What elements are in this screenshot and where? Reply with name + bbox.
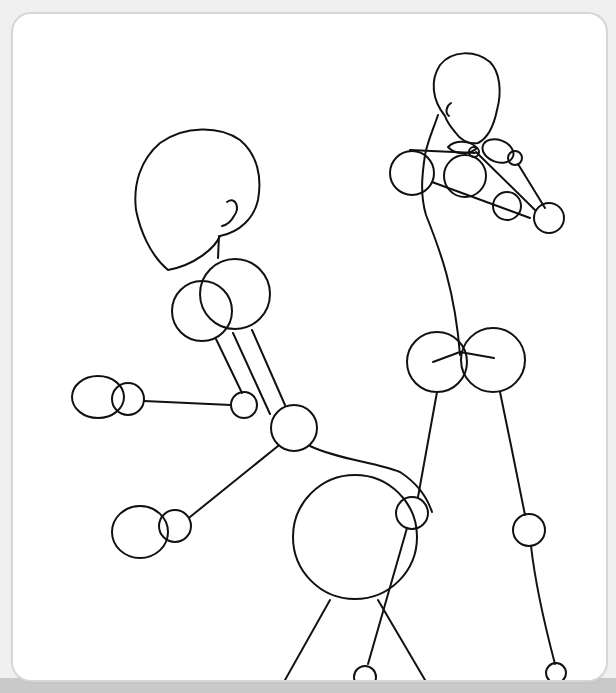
left-wrist-lower — [159, 510, 191, 542]
right-figure — [390, 53, 566, 680]
left-leg-3 — [378, 600, 425, 680]
right-far-elbow-small — [508, 151, 522, 165]
left-head — [135, 129, 259, 270]
bottom-band — [0, 678, 616, 693]
right-ankle — [546, 663, 566, 680]
left-neck — [218, 236, 219, 258]
left-hand-upper — [72, 376, 124, 418]
left-figure — [72, 129, 432, 680]
left-spine — [310, 446, 432, 512]
left-upperarm-line-3 — [252, 330, 285, 405]
right-thigh-right — [500, 392, 525, 515]
right-pelvis-line-2 — [460, 352, 494, 358]
left-shoulder-joint — [200, 259, 270, 329]
left-upperarm-line-2 — [233, 333, 270, 414]
right-ear — [447, 103, 451, 116]
right-knee — [513, 514, 545, 546]
right-head — [434, 53, 500, 143]
right-arm-1 — [432, 182, 530, 218]
right-shin — [531, 546, 555, 664]
right-hip-left — [407, 332, 467, 392]
right-shoulder-right — [444, 155, 486, 197]
left-forearm-lower — [190, 446, 278, 517]
right-hip-right — [461, 328, 525, 392]
right-shoulder-left — [390, 151, 434, 195]
left-shoulder-joint-back — [172, 281, 232, 341]
figure-drawing — [13, 14, 606, 680]
right-leg-left — [418, 392, 437, 497]
left-ear — [222, 200, 237, 226]
illustration-card — [13, 14, 606, 680]
left-elbow-small — [231, 392, 257, 418]
right-arm-3 — [518, 164, 545, 208]
left-leg-1 — [285, 600, 330, 680]
left-knee — [354, 666, 376, 680]
right-hand — [534, 203, 564, 233]
left-pelvis — [293, 475, 417, 599]
left-wrist-upper — [112, 383, 144, 415]
left-elbow-large — [271, 405, 317, 451]
left-forearm-upper — [144, 401, 231, 405]
left-upperarm-line-1 — [216, 339, 242, 393]
right-pelvis-line-1 — [433, 352, 460, 362]
